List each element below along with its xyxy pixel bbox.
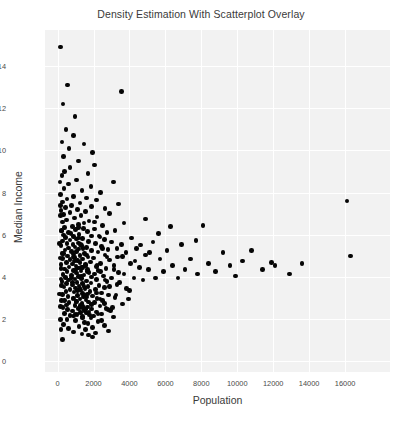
scatter-point bbox=[141, 278, 146, 283]
scatter-point bbox=[86, 171, 91, 176]
scatter-point bbox=[81, 246, 86, 251]
y-tick-label: 0 bbox=[0, 357, 6, 366]
scatter-point bbox=[102, 323, 107, 328]
gridline-horizontal bbox=[45, 150, 390, 151]
scatter-point bbox=[78, 201, 83, 206]
scatter-point bbox=[62, 186, 67, 191]
scatter-point bbox=[90, 325, 95, 330]
scatter-point bbox=[74, 178, 79, 183]
scatter-point bbox=[233, 274, 238, 279]
scatter-point bbox=[195, 272, 200, 277]
scatter-point bbox=[59, 298, 64, 303]
scatter-point bbox=[179, 242, 184, 247]
scatter-point bbox=[206, 261, 211, 266]
x-axis-label: Population bbox=[45, 394, 390, 406]
scatter-point bbox=[58, 203, 63, 208]
scatter-point bbox=[107, 211, 112, 216]
y-tick-label: 4 bbox=[0, 273, 6, 282]
scatter-point bbox=[74, 299, 79, 304]
scatter-point bbox=[79, 213, 84, 218]
gridline-vertical bbox=[129, 30, 130, 372]
y-axis-label: Median Income bbox=[12, 137, 24, 277]
scatter-point bbox=[99, 291, 104, 296]
scatter-point bbox=[110, 305, 115, 310]
scatter-point bbox=[71, 330, 76, 335]
scatter-point bbox=[260, 267, 265, 272]
scatter-point bbox=[73, 318, 78, 323]
scatter-point bbox=[57, 292, 62, 297]
scatter-point bbox=[73, 114, 78, 119]
scatter-point bbox=[80, 332, 85, 337]
scatter-point bbox=[89, 234, 94, 239]
chart-title: Density Estimation With Scatterplot Over… bbox=[0, 8, 402, 20]
scatter-point bbox=[102, 237, 107, 242]
scatter-point bbox=[128, 261, 133, 266]
scatter-point bbox=[59, 266, 64, 271]
scatter-point bbox=[143, 253, 148, 258]
scatter-point bbox=[68, 165, 73, 170]
scatter-point bbox=[134, 246, 139, 251]
scatter-point bbox=[59, 327, 64, 332]
scatter-point bbox=[60, 337, 65, 342]
scatter-point bbox=[124, 286, 129, 291]
scatter-point bbox=[61, 102, 66, 107]
scatter-point bbox=[95, 215, 100, 220]
scatter-point bbox=[89, 248, 94, 253]
scatter-point bbox=[77, 324, 82, 329]
scatter-point bbox=[122, 272, 127, 277]
scatter-point bbox=[89, 204, 94, 209]
scatter-point bbox=[158, 257, 163, 262]
scatter-point bbox=[99, 318, 104, 323]
scatter-point bbox=[58, 192, 63, 197]
scatter-point bbox=[240, 259, 245, 264]
scatter-point bbox=[69, 203, 74, 208]
scatter-point bbox=[151, 240, 156, 245]
gridline-horizontal bbox=[45, 193, 390, 194]
scatter-point bbox=[122, 221, 127, 226]
scatter-point bbox=[82, 142, 87, 147]
scatter-point bbox=[65, 197, 70, 202]
scatter-point bbox=[62, 311, 67, 316]
scatter-point bbox=[60, 251, 65, 256]
scatter-point bbox=[58, 213, 63, 218]
scatter-point bbox=[228, 263, 233, 268]
gridline-vertical bbox=[309, 30, 310, 372]
scatter-point bbox=[78, 242, 83, 247]
scatter-point bbox=[84, 196, 89, 201]
scatter-point bbox=[64, 218, 69, 223]
scatter-point bbox=[67, 146, 72, 151]
scatter-point bbox=[124, 250, 129, 255]
gridline-horizontal bbox=[45, 108, 390, 109]
scatter-point bbox=[103, 206, 108, 211]
plot-area bbox=[45, 30, 390, 372]
scatter-point bbox=[92, 163, 97, 168]
scatter-point bbox=[113, 228, 118, 233]
scatter-point bbox=[63, 205, 68, 210]
scatter-point bbox=[58, 317, 63, 322]
scatter-point bbox=[58, 45, 63, 50]
scatter-point bbox=[111, 315, 116, 320]
scatter-point bbox=[300, 261, 305, 266]
scatter-point bbox=[83, 263, 88, 268]
scatter-point bbox=[60, 173, 65, 178]
scatter-point bbox=[82, 293, 87, 298]
scatter-point bbox=[80, 305, 85, 310]
scatter-point bbox=[68, 210, 73, 215]
scatter-point bbox=[84, 253, 89, 258]
scatter-point bbox=[183, 267, 188, 272]
gridline-vertical bbox=[273, 30, 274, 372]
scatter-point bbox=[90, 150, 95, 155]
scatter-point bbox=[115, 255, 120, 260]
scatter-point bbox=[65, 83, 70, 88]
scatter-point bbox=[57, 241, 62, 246]
scatter-point bbox=[95, 263, 100, 268]
scatter-point bbox=[71, 194, 76, 199]
scatter-point bbox=[61, 154, 66, 159]
scatter-point bbox=[76, 159, 81, 164]
scatter-point bbox=[114, 293, 119, 298]
scatter-point bbox=[104, 266, 109, 271]
scatter-point bbox=[85, 229, 90, 234]
scatter-point bbox=[82, 221, 87, 226]
scatter-point bbox=[71, 133, 76, 138]
scatter-point bbox=[100, 246, 105, 251]
